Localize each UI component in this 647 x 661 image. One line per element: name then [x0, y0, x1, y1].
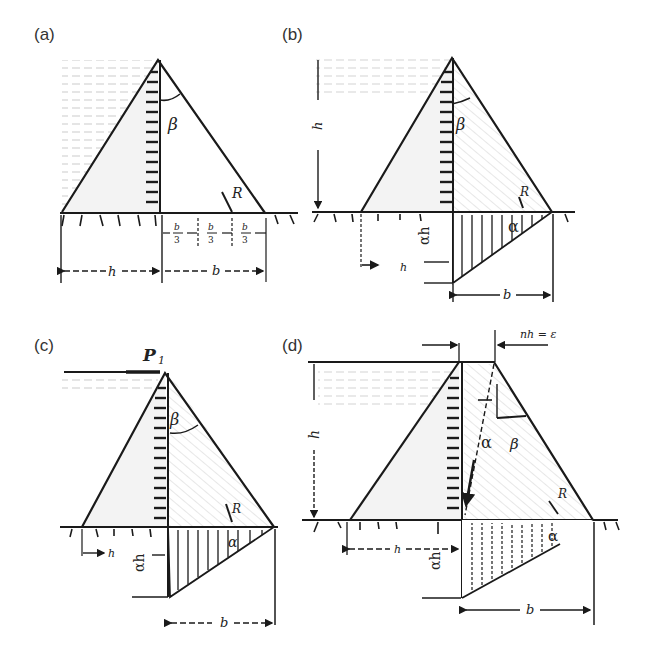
dim-label-ah-c: αh [131, 554, 147, 572]
water-reservoir-b [316, 58, 450, 98]
symbol-r-d: R [557, 487, 567, 501]
symbol-beta-b: β [455, 115, 465, 134]
dim-label-b-a: b [212, 263, 220, 278]
symbol-alpha-upstream-d: α [481, 433, 492, 452]
water-reservoir-c [62, 376, 158, 390]
dim-label-ah-b: αh [416, 227, 432, 245]
symbol-alpha-uplift-d: α [548, 527, 558, 545]
dam-diagram-figure: β R b 3 b 3 b 3 h b [0, 0, 647, 661]
symbol-alpha-uplift-c: α [228, 534, 238, 550]
panel-d: α β nh = ε α R h [302, 328, 619, 625]
svg-text:b: b [174, 222, 180, 232]
dim-label-ah-d: αh [427, 552, 443, 570]
svg-text:3: 3 [174, 235, 180, 245]
third-labels-a: b 3 b 3 b 3 [173, 222, 251, 245]
dim-label-h-small-d: h [394, 543, 401, 556]
dim-label-b-b: b [503, 287, 511, 302]
symbol-force-sub-c: 1 [158, 354, 165, 367]
dim-label-h-c: h [108, 547, 115, 560]
dim-label-h-d: h [306, 430, 322, 439]
symbol-beta-a: β [167, 114, 178, 134]
panel-c: P 1 α β R [60, 345, 278, 630]
svg-text:b: b [208, 222, 214, 232]
panel-b: α β R h h αh b [310, 58, 575, 302]
uplift-pressure-triangle-c [168, 527, 274, 597]
dim-label-h-b: h [310, 122, 325, 130]
dim-label-b-d: b [526, 602, 534, 617]
symbol-r-b: R [519, 185, 529, 199]
symbol-r-c: R [231, 502, 241, 516]
symbol-force-p-c: P [142, 345, 157, 365]
symbol-beta-c: β [169, 410, 179, 429]
svg-text:b: b [242, 222, 248, 232]
dim-label-b-c: b [220, 615, 228, 630]
symbol-r-a: R [231, 185, 243, 201]
svg-text:3: 3 [242, 235, 248, 245]
panel-a: β R b 3 b 3 b 3 h b [60, 60, 298, 283]
angle-arc-beta-a [160, 94, 180, 100]
svg-text:3: 3 [208, 235, 214, 245]
symbol-beta-d: β [509, 435, 519, 453]
dim-label-crest-offset-d: nh = ε [520, 328, 556, 341]
resultant-line-a [222, 192, 232, 212]
symbol-alpha-uplift-b: α [508, 217, 519, 236]
dim-label-h-small-b: h [400, 261, 407, 274]
dim-label-h-a: h [108, 264, 116, 279]
